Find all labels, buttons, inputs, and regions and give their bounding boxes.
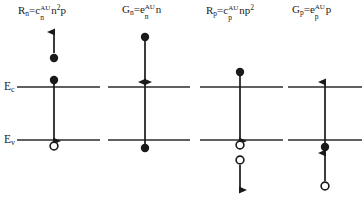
carrier-hole-valence [236, 141, 244, 149]
carrier-electron-valence [141, 144, 149, 152]
panel-Gp-graphics [321, 82, 329, 190]
carrier-electron-conduction [50, 76, 58, 84]
carrier-hole-deep [321, 182, 329, 190]
carrier-electron-excited [50, 54, 58, 62]
panel-Gn-graphics [141, 33, 149, 152]
panel-Rp-graphics [236, 68, 244, 190]
panel-Rn-graphics [50, 32, 58, 150]
carrier-hole-excited [236, 156, 244, 164]
auger-process-figure: Ec Ev Rn=cAUnn2p Gn=eAUnn Rp=cAUpnp2 Gp=… [0, 0, 364, 201]
carrier-electron-conduction [236, 68, 244, 76]
carrier-electron-hot [141, 33, 149, 41]
diagram-vector-layer [0, 0, 364, 201]
carrier-hole-valence [50, 142, 58, 150]
carrier-electron-valence [321, 143, 329, 151]
